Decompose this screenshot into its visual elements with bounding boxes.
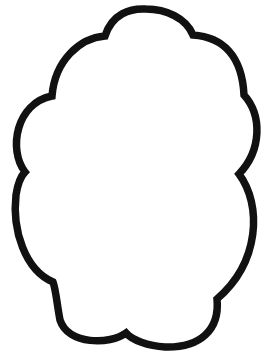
cloud-figure: [0, 0, 270, 358]
cloud-outline-icon: [0, 0, 270, 358]
cloud-shape: [15, 9, 257, 347]
